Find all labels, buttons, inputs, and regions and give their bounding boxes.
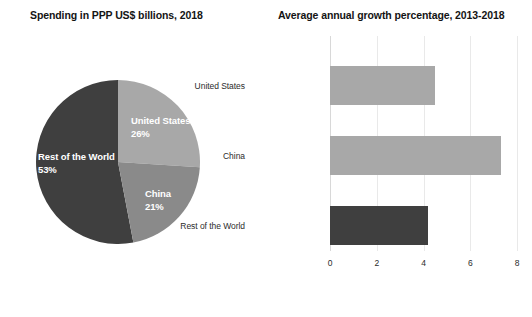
pie-label-rest-of-world: Rest of the World 53%	[38, 151, 115, 176]
bar-united-states[interactable]	[330, 66, 435, 105]
pie-label-china: China 21%	[145, 188, 171, 213]
bar-rest-of-world[interactable]	[330, 206, 428, 245]
gridline-8	[517, 36, 518, 251]
bar-china[interactable]	[330, 136, 501, 175]
x-tick-2: 2	[374, 258, 379, 268]
bar-category-label-china: China	[223, 151, 245, 161]
x-tick-4: 4	[421, 258, 426, 268]
pie-label-rest-of-world-value: 53%	[38, 164, 57, 175]
x-tick-6: 6	[468, 258, 473, 268]
pie-label-united-states-name: United States	[131, 115, 190, 126]
bar-chart: United States China Rest of the World 0 …	[266, 0, 532, 317]
pie-label-china-name: China	[145, 188, 171, 199]
bar-category-label-rest-of-world: Rest of the World	[180, 221, 245, 231]
bar-chart-panel: Average annual growth percentage, 2013-2…	[266, 0, 532, 317]
pie-label-china-value: 21%	[145, 201, 164, 212]
bar-category-label-united-states: United States	[195, 81, 245, 91]
pie-label-rest-of-world-name: Rest of the World	[38, 151, 115, 162]
bar-chart-plot-area: United States China Rest of the World 0 …	[330, 36, 517, 251]
pie-label-united-states-value: 26%	[131, 128, 150, 139]
x-tick-0: 0	[328, 258, 333, 268]
x-tick-8: 8	[515, 258, 520, 268]
pie-label-united-states: United States 26%	[131, 115, 190, 140]
pie-chart-title: Spending in PPP US$ billions, 2018	[30, 9, 203, 21]
